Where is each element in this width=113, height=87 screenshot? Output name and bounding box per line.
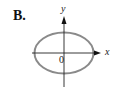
- x-axis-label: x: [105, 47, 109, 57]
- ellipse-figure: B. y x 0: [0, 0, 113, 87]
- coordinate-plot: [0, 0, 113, 87]
- y-axis-label: y: [61, 4, 65, 14]
- x-axis-arrow-icon: [94, 51, 101, 56]
- origin-label: 0: [59, 55, 64, 65]
- y-axis-arrow-icon: [62, 16, 67, 24]
